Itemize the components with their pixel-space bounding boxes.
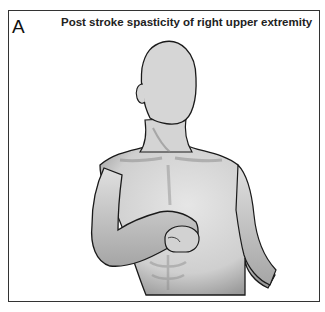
figure-illustration — [0, 0, 325, 312]
sternum-shade — [168, 165, 170, 205]
clenched-fist — [165, 226, 199, 252]
head — [141, 41, 196, 124]
